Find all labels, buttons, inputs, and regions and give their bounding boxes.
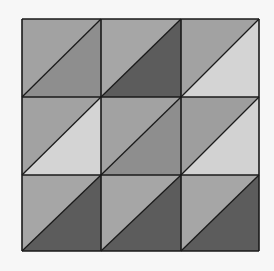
triangle-grid-diagram <box>0 0 274 271</box>
